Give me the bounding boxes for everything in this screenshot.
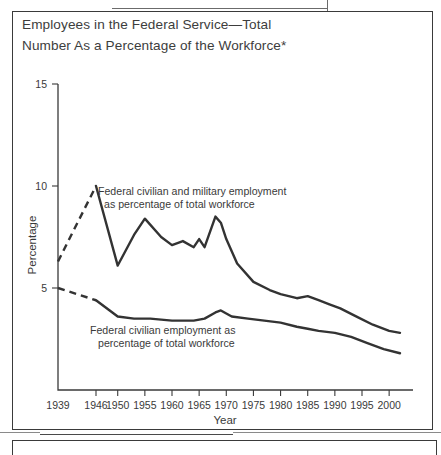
chart-plot-area: 51015 1939194619501955196019651970197519… bbox=[0, 0, 441, 455]
civilian-series-annotation-line2: percentage of total workforce bbox=[98, 337, 235, 349]
x-tick-label: 1939 bbox=[46, 399, 70, 411]
x-tick-label: 1995 bbox=[350, 399, 374, 411]
chart-svg: 51015 1939194619501955196019651970197519… bbox=[0, 0, 441, 455]
series-1-dashed-segment bbox=[58, 288, 96, 300]
y-axis-title: Percentage bbox=[26, 216, 38, 275]
x-tick-label: 1946 bbox=[84, 399, 108, 411]
x-tick-label: 1950 bbox=[106, 399, 130, 411]
x-tick-label: 1960 bbox=[160, 399, 184, 411]
x-axis-ticks: 1939194619501955196019651970197519801985… bbox=[46, 390, 401, 411]
x-tick-label: 1965 bbox=[187, 399, 211, 411]
y-tick-label: 15 bbox=[35, 78, 47, 90]
total-series-annotation-line1: Federal civilian and military employment bbox=[98, 185, 286, 197]
series-0-dashed-segment bbox=[58, 186, 96, 261]
y-axis-ticks: 51015 bbox=[35, 78, 58, 294]
x-tick-label: 2000 bbox=[377, 399, 401, 411]
total-series-annotation-line2: as percentage of total workforce bbox=[104, 198, 255, 210]
civilian-series-annotation-line1: Federal civilian employment as bbox=[90, 324, 235, 336]
x-tick-label: 1970 bbox=[215, 399, 239, 411]
x-tick-label: 1985 bbox=[296, 399, 320, 411]
y-tick-label: 10 bbox=[35, 180, 47, 192]
x-tick-label: 1955 bbox=[133, 399, 157, 411]
x-axis-title: Year bbox=[213, 414, 236, 426]
y-tick-label: 5 bbox=[41, 282, 47, 294]
x-tick-label: 1980 bbox=[269, 399, 293, 411]
x-tick-label: 1975 bbox=[242, 399, 266, 411]
x-tick-label: 1990 bbox=[323, 399, 347, 411]
